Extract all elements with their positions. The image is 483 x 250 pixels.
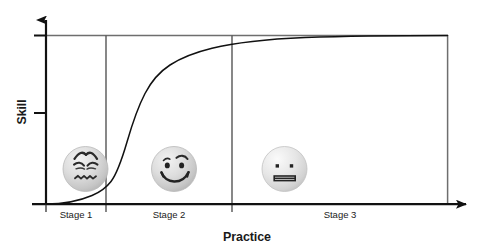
learning-curve-figure: Skill Practice Stage 1 Stage 2 Stage 3	[0, 0, 483, 250]
stage-label-3: Stage 3	[324, 209, 357, 220]
stage-2-face-smiling	[152, 147, 197, 192]
chart-canvas: Skill Practice Stage 1 Stage 2 Stage 3	[0, 0, 483, 250]
stage-label-2: Stage 2	[153, 209, 186, 220]
x-axis-title: Practice	[223, 230, 271, 244]
stage-1-face-distressed	[63, 147, 108, 192]
y-axis-title: Skill	[15, 99, 29, 124]
stage-3-face-neutral	[262, 147, 307, 192]
stage-label-1: Stage 1	[60, 209, 93, 220]
